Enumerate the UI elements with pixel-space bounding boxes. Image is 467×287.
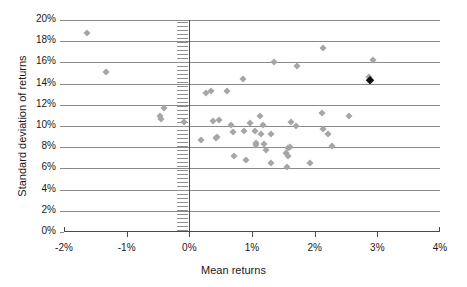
x-axis-tick-label: 0% (164, 242, 214, 253)
x-axis-tick (377, 232, 378, 237)
y-axis-tick-label: 4% (14, 183, 56, 194)
data-point (257, 113, 264, 120)
y-axis-tick (60, 62, 64, 63)
data-point (260, 121, 267, 128)
data-point (346, 113, 353, 120)
gridline-y (64, 168, 440, 169)
data-point (292, 122, 299, 129)
x-axis-tick-label: 4% (415, 242, 465, 253)
data-point (284, 164, 291, 171)
x-axis-tick (315, 232, 316, 237)
data-point (257, 131, 264, 138)
scatter-chart: Mean returns Standard deviation of retur… (0, 0, 467, 287)
y-axis-tick (60, 84, 64, 85)
gridline-y (64, 147, 440, 148)
data-point (223, 87, 230, 94)
y-axis-tick (60, 211, 64, 212)
data-point (102, 68, 109, 75)
plot-area (64, 20, 440, 232)
y-axis-tick-label: 2% (14, 204, 56, 215)
y-axis-tick-label: 20% (14, 13, 56, 24)
data-point (230, 152, 237, 159)
gridline-y (64, 84, 440, 85)
gridline-y (64, 20, 440, 21)
x-axis-tick-label: 3% (352, 242, 402, 253)
data-point (84, 29, 91, 36)
data-point (329, 143, 336, 150)
data-point (241, 128, 248, 135)
gridline-y (64, 41, 440, 42)
data-point (158, 115, 165, 122)
data-point (318, 110, 325, 117)
y-axis-tick (60, 41, 64, 42)
y-axis-tick-label: 12% (14, 98, 56, 109)
x-axis-tick-label: 2% (290, 242, 340, 253)
gridline-y (64, 211, 440, 212)
gridline-y (64, 62, 440, 63)
gridline-y (64, 126, 440, 127)
data-point (198, 136, 205, 143)
y-axis-tick-label: 14% (14, 77, 56, 88)
x-axis-tick-label: 1% (227, 242, 277, 253)
x-axis-tick (189, 232, 190, 237)
data-point (268, 160, 275, 167)
y-axis-tick-label: 6% (14, 161, 56, 172)
data-point (215, 116, 222, 123)
data-point (325, 131, 332, 138)
zero-reference-line (189, 20, 190, 232)
x-axis-end-cap (64, 227, 65, 232)
data-point (242, 156, 249, 163)
y-axis-tick (60, 105, 64, 106)
x-axis-tick (252, 232, 253, 237)
x-axis-tick-label: -2% (39, 242, 89, 253)
gridline-y (64, 190, 440, 191)
x-axis-end-cap (439, 227, 440, 232)
data-point (240, 76, 247, 83)
y-axis-tick (60, 126, 64, 127)
y-axis-tick (60, 190, 64, 191)
zero-line-hatching (177, 20, 188, 232)
y-axis-tick (60, 147, 64, 148)
y-axis-tick-label: 16% (14, 55, 56, 66)
x-axis-tick-label: -1% (102, 242, 152, 253)
data-point (230, 129, 237, 136)
y-axis-tick (60, 20, 64, 21)
y-axis-tick-label: 18% (14, 34, 56, 45)
y-axis-tick-label: 8% (14, 140, 56, 151)
gridline-y (64, 105, 440, 106)
y-axis-tick (60, 232, 64, 233)
y-axis-tick-label: 0% (14, 225, 56, 236)
data-point (268, 131, 275, 138)
data-point (270, 59, 277, 66)
data-point (262, 147, 269, 154)
x-axis-tick (127, 232, 128, 237)
y-axis-tick-label: 10% (14, 119, 56, 130)
data-point (307, 160, 314, 167)
data-point (319, 44, 326, 51)
y-axis-tick (60, 168, 64, 169)
data-point (228, 121, 235, 128)
x-axis-title: Mean returns (0, 264, 467, 276)
